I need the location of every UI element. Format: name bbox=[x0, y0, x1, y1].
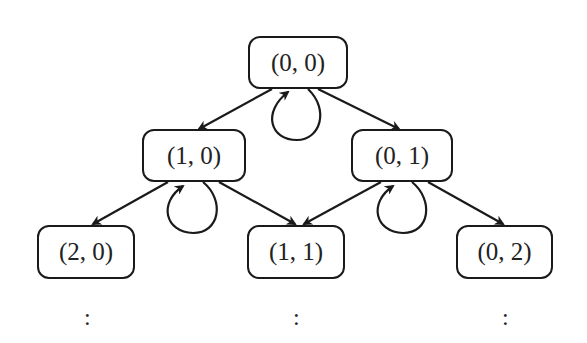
self-loop-01 bbox=[378, 182, 427, 233]
edge-00-10 bbox=[199, 89, 272, 129]
node-0-1: (0, 1) bbox=[351, 129, 453, 182]
continuation-dots-left: : bbox=[84, 305, 91, 329]
edge-10-11 bbox=[219, 182, 295, 224]
continuation-dots-right: : bbox=[502, 305, 509, 329]
node-1-1: (1, 1) bbox=[247, 225, 345, 279]
self-loop-00 bbox=[272, 89, 320, 140]
edge-01-11 bbox=[304, 182, 381, 224]
node-2-0: (2, 0) bbox=[37, 225, 135, 279]
node-0-0: (0, 0) bbox=[248, 36, 348, 89]
edge-10-20 bbox=[93, 182, 168, 224]
edge-00-01 bbox=[318, 89, 399, 129]
node-0-2: (0, 2) bbox=[456, 225, 553, 279]
edge-01-02 bbox=[428, 182, 503, 224]
node-1-0: (1, 0) bbox=[142, 129, 246, 182]
continuation-dots-center: : bbox=[293, 305, 300, 329]
self-loop-10 bbox=[168, 182, 217, 233]
